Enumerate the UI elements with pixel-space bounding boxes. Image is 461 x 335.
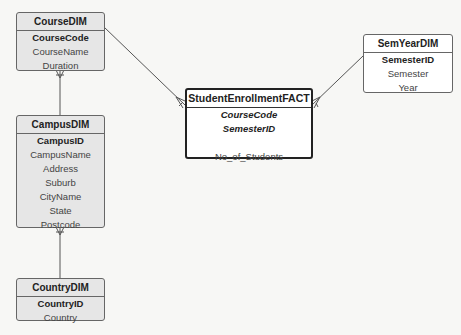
primary-key: SemesterID [364,53,452,67]
primary-key: CourseCode [17,31,104,45]
foreign-key: CourseCode [187,108,311,122]
attribute: Duration [17,59,104,73]
attribute: CourseName [17,45,104,59]
measure: No_of_Students [187,150,311,164]
entity-course-dim[interactable]: CourseDIM CourseCode CourseName Duration [16,12,105,71]
entity-title: SemYearDIM [364,35,452,53]
entity-title: CourseDIM [17,13,104,31]
primary-key: CampusID [17,134,104,148]
entity-student-enrollment-fact[interactable]: StudentEnrollmentFACT CourseCode Semeste… [185,88,313,159]
attribute: Semester [364,67,452,81]
attribute: CityName [17,190,104,204]
foreign-key: SemesterID [187,122,311,136]
attribute: Address [17,162,104,176]
primary-key: CountryID [17,297,104,311]
attribute: Year [364,81,452,95]
attribute: State [17,204,104,218]
attribute: Suburb [17,176,104,190]
relationship-course-fact [104,27,185,105]
spacer [187,136,311,150]
attribute: Country [17,311,104,325]
entity-title: CampusDIM [17,116,104,134]
attribute: Postcode [17,218,104,232]
entity-title: CountryDIM [17,279,104,297]
attribute: CampusName [17,148,104,162]
entity-campus-dim[interactable]: CampusDIM CampusID CampusName Address Su… [16,115,105,228]
entity-country-dim[interactable]: CountryDIM CountryID Country [16,278,105,321]
entity-title: StudentEnrollmentFACT [187,90,311,108]
entity-semyear-dim[interactable]: SemYearDIM SemesterID Semester Year [363,34,453,93]
